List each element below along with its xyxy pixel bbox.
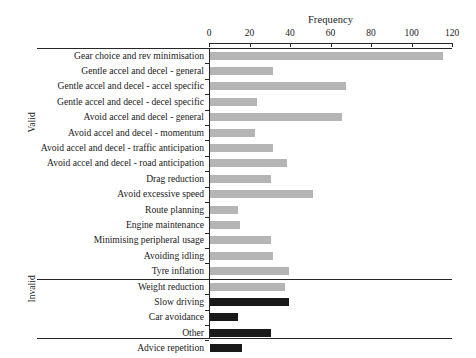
bar-row: Slow driving (0, 294, 476, 309)
x-tick-label: 100 (404, 28, 418, 38)
bar-row-label: Tyre inflation (152, 266, 204, 276)
bar (210, 298, 289, 306)
bar-row-label: Engine maintenance (126, 220, 204, 230)
bar-row: Other (0, 325, 476, 340)
bar-row: Gentle accel and decel - accel specific (0, 79, 476, 94)
y-tick-mark (205, 310, 209, 311)
y-tick-mark (205, 202, 209, 203)
bar-row: Weight reduction (0, 279, 476, 294)
bar-row: Avoid accel and decel - momentum (0, 125, 476, 140)
bar (210, 329, 271, 337)
bar (210, 67, 273, 75)
bar-row-label: Slow driving (154, 297, 204, 307)
bar-row: Avoid accel and decel - general (0, 110, 476, 125)
bar-row-label: Gentle accel and decel - decel specific (57, 97, 204, 107)
bar-row: Avoiding idling (0, 248, 476, 263)
bar-row-label: Minimising peripheral usage (94, 236, 204, 246)
bar-row-label: Avoid accel and decel - road anticipatio… (47, 159, 204, 169)
bar (210, 159, 287, 167)
y-tick-mark (205, 48, 209, 49)
bar (210, 236, 271, 244)
bar (210, 313, 238, 321)
y-tick-mark (205, 156, 209, 157)
y-tick-mark (205, 94, 209, 95)
bar (210, 82, 346, 90)
x-axis-title: Frequency (209, 14, 452, 25)
bar-row-label: Gentle accel and decel - accel specific (58, 82, 204, 92)
bar-rows: Gear choice and rev minimisationGentle a… (0, 48, 476, 356)
bar-row: Car avoidance (0, 310, 476, 325)
bar (210, 206, 238, 214)
y-tick-mark (205, 217, 209, 218)
y-tick-mark (205, 125, 209, 126)
bar-row-label: Avoid accel and decel - momentum (68, 128, 204, 138)
bar-row-label: Other (182, 328, 204, 338)
y-tick-mark (205, 63, 209, 64)
bar-row: Gentle accel and decel - general (0, 63, 476, 78)
bar-row: Avoid accel and decel - traffic anticipa… (0, 140, 476, 155)
group-label-valid: Valid (24, 120, 38, 160)
bar-row-label: Avoid accel and decel - traffic anticipa… (41, 143, 204, 153)
x-axis-line (209, 43, 452, 44)
bar (210, 113, 342, 121)
bar-row: Tyre inflation (0, 263, 476, 278)
x-tick-label: 20 (245, 28, 255, 38)
y-tick-mark (205, 263, 209, 264)
bar (210, 283, 285, 291)
y-tick-mark (205, 248, 209, 249)
bar-row-label: Advice repetition (137, 343, 204, 353)
bar-row: Avoid accel and decel - road anticipatio… (0, 156, 476, 171)
bar-row-label: Car avoidance (149, 313, 204, 323)
bar-row: Gentle accel and decel - decel specific (0, 94, 476, 109)
bar (210, 344, 242, 352)
bar (210, 252, 273, 260)
bar-row-label: Route planning (145, 205, 204, 215)
y-tick-mark (205, 279, 209, 280)
y-tick-mark (205, 110, 209, 111)
x-tick-label: 0 (207, 28, 212, 38)
bar-row-label: Avoiding idling (144, 251, 204, 261)
group-label-invalid-text: Invalid (26, 289, 37, 303)
y-tick-mark (205, 187, 209, 188)
x-tick-label: 60 (326, 28, 336, 38)
bar-row: Engine maintenance (0, 217, 476, 232)
bar (210, 267, 289, 275)
bar-row: Drag reduction (0, 171, 476, 186)
x-tick-label: 80 (366, 28, 376, 38)
bar (210, 129, 255, 137)
group-label-valid-text: Valid (26, 119, 37, 133)
bar-row-label: Drag reduction (146, 174, 204, 184)
bar-row: Advice repetition (0, 340, 476, 355)
bar-row: Route planning (0, 202, 476, 217)
bar-row: Minimising peripheral usage (0, 233, 476, 248)
frequency-bar-chart: Frequency 020406080100120 Gear choice an… (0, 0, 476, 358)
bar (210, 190, 313, 198)
bar (210, 144, 273, 152)
y-tick-mark (205, 171, 209, 172)
bar (210, 52, 443, 60)
bar-row-label: Weight reduction (138, 282, 204, 292)
x-tick-mark (452, 43, 453, 47)
y-tick-mark (205, 340, 209, 341)
y-tick-mark (205, 325, 209, 326)
bar-row: Avoid excessive speed (0, 187, 476, 202)
bar-row-label: Gear choice and rev minimisation (74, 51, 204, 61)
x-tick-label: 40 (285, 28, 295, 38)
bar-row: Gear choice and rev minimisation (0, 48, 476, 63)
bar-row-label: Avoid accel and decel - general (84, 112, 204, 122)
bar-row-label: Avoid excessive speed (117, 189, 204, 199)
bar (210, 175, 271, 183)
y-tick-mark (205, 294, 209, 295)
y-tick-mark (205, 79, 209, 80)
bar-row-label: Gentle accel and decel - general (81, 66, 204, 76)
y-tick-mark (205, 233, 209, 234)
x-tick-label: 120 (445, 28, 459, 38)
y-tick-mark (205, 140, 209, 141)
group-label-invalid: Invalid (24, 290, 38, 330)
bar (210, 221, 240, 229)
bar (210, 98, 257, 106)
